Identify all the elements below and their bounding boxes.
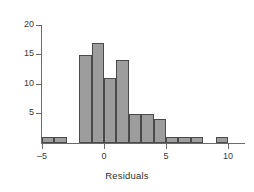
histogram-bar: [141, 114, 153, 144]
y-tick-label-15-text: 15: [12, 49, 34, 58]
histogram-bar: [129, 114, 141, 144]
y-tick-label-5-text: 5: [12, 108, 34, 117]
histogram-bar: [166, 137, 178, 143]
x-tick-5: [166, 144, 167, 149]
histogram-bar: [54, 137, 66, 143]
y-tick-20: [36, 25, 41, 26]
histogram-figure: 20 15 10 5 –5 0 5 10 Residuals: [0, 0, 254, 192]
histogram-bar: [191, 137, 203, 143]
plot-area: 20 15 10 5 –5 0 5 10: [0, 0, 254, 192]
histogram-bar: [154, 119, 166, 143]
x-axis-line: [41, 143, 245, 144]
histogram-bar: [104, 78, 116, 143]
x-tick-label-0: 0: [89, 151, 119, 161]
histogram-bar: [178, 137, 190, 143]
y-tick-label-10: 10: [8, 79, 34, 88]
x-tick-label-5: 5: [151, 151, 181, 161]
histogram-bar: [116, 60, 128, 143]
y-tick-label-10-text: 10: [12, 79, 34, 88]
y-tick-label-15: 15: [8, 49, 34, 58]
y-axis-line: [41, 25, 42, 144]
x-tick-minus5: [42, 144, 43, 149]
y-tick-15: [36, 54, 41, 55]
y-tick-label-20: 20: [8, 20, 34, 29]
histogram-bar: [79, 55, 91, 144]
x-tick-0: [104, 144, 105, 149]
x-tick-label-minus5: –5: [27, 151, 57, 161]
y-tick-5: [36, 113, 41, 114]
histogram-bar: [216, 137, 228, 143]
y-tick-label-20-text: 20: [12, 20, 34, 29]
y-tick-label-5: 5: [8, 108, 34, 117]
y-tick-10: [36, 84, 41, 85]
histogram-bar: [92, 43, 104, 143]
x-axis-title: Residuals: [0, 170, 254, 181]
x-tick-10: [228, 144, 229, 149]
histogram-bar: [42, 137, 54, 143]
x-tick-label-10: 10: [213, 151, 243, 161]
